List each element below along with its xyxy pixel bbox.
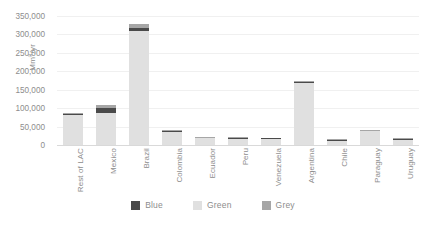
y-axis-tick-label: 50,000: [0, 122, 45, 131]
legend-swatch-icon: [131, 201, 140, 210]
bar-group[interactable]: [129, 24, 149, 145]
bar-group[interactable]: [96, 105, 116, 145]
bars-container: [57, 16, 419, 145]
x-axis-label: Brazil: [142, 148, 151, 169]
bar-segment-green[interactable]: [228, 139, 248, 145]
y-axis-tick-label: 100,000: [0, 104, 45, 113]
y-axis-tick-label: 250,000: [0, 48, 45, 57]
bar-group[interactable]: [261, 138, 281, 145]
bar-segment-green[interactable]: [195, 138, 215, 145]
legend-label: Blue: [145, 200, 163, 210]
stacked-bar-chart: Mm3/yr 350,000300,000250,000200,000150,0…: [0, 0, 426, 225]
bar-segment-green[interactable]: [360, 131, 380, 145]
x-axis-labels: Rest of LACMexicoBrazilColombiaEcuadorPe…: [57, 146, 419, 198]
x-axis-label: Paraguay: [373, 148, 382, 183]
bar-segment-green[interactable]: [294, 83, 314, 145]
legend-item[interactable]: Blue: [131, 200, 163, 210]
y-axis-tick-label: 150,000: [0, 85, 45, 94]
bar-group[interactable]: [195, 137, 215, 145]
bar-group[interactable]: [63, 113, 83, 145]
x-axis-label: Argentina: [307, 148, 316, 183]
bar-segment-green[interactable]: [63, 115, 83, 145]
legend-item[interactable]: Grey: [262, 200, 295, 210]
x-axis-label: Peru: [241, 148, 250, 165]
x-axis-label: Venezuela: [274, 148, 283, 186]
bar-group[interactable]: [360, 130, 380, 145]
bar-group[interactable]: [294, 81, 314, 145]
y-axis-tick-label: 300,000: [0, 30, 45, 39]
bar-segment-green[interactable]: [261, 139, 281, 145]
chart-legend: BlueGreenGrey: [0, 200, 426, 210]
bar-segment-green[interactable]: [96, 113, 116, 145]
y-axis-tick-label: 200,000: [0, 67, 45, 76]
y-axis-tick-label: 350,000: [0, 12, 45, 21]
legend-label: Green: [207, 200, 232, 210]
x-axis-label: Rest of LAC: [76, 148, 85, 192]
x-axis-label: Mexico: [109, 148, 118, 174]
x-axis-label: Ecuador: [208, 148, 217, 179]
legend-swatch-icon: [193, 201, 202, 210]
bar-segment-green[interactable]: [129, 31, 149, 145]
legend-item[interactable]: Green: [193, 200, 232, 210]
bar-segment-green[interactable]: [327, 141, 347, 145]
plot-area: 350,000300,000250,000200,000150,000100,0…: [57, 16, 419, 145]
bar-segment-green[interactable]: [162, 132, 182, 145]
bar-group[interactable]: [327, 139, 347, 145]
y-axis-tick-label: 0: [0, 141, 45, 150]
x-axis-label: Uruguay: [406, 148, 415, 179]
x-axis-label: Colombia: [175, 148, 184, 183]
legend-label: Grey: [276, 200, 295, 210]
x-axis-label: Chile: [340, 148, 349, 167]
bar-segment-green[interactable]: [393, 140, 413, 145]
legend-swatch-icon: [262, 201, 271, 210]
bar-group[interactable]: [228, 137, 248, 145]
bar-group[interactable]: [393, 138, 413, 145]
bar-group[interactable]: [162, 130, 182, 145]
